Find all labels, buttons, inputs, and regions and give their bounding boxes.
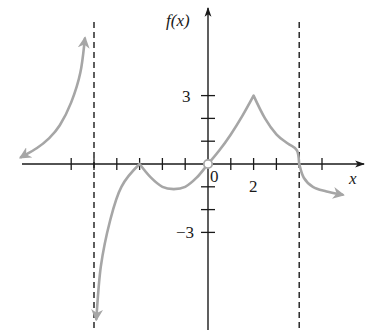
x-tick-label-2: 2 xyxy=(249,177,258,196)
curve-branch-middle xyxy=(96,96,299,319)
curve-branch-right xyxy=(299,164,342,195)
origin-label: 0 xyxy=(210,167,219,186)
plot-area xyxy=(21,8,364,332)
y-tick-label-3: 3 xyxy=(182,87,191,106)
y-axis-label: f(x) xyxy=(166,11,190,30)
function-graph: f(x) x 0 2 3 −3 xyxy=(0,0,375,335)
x-axis-label: x xyxy=(348,169,357,188)
curve-branch-left xyxy=(21,39,85,158)
y-tick-label-neg3: −3 xyxy=(176,223,194,242)
